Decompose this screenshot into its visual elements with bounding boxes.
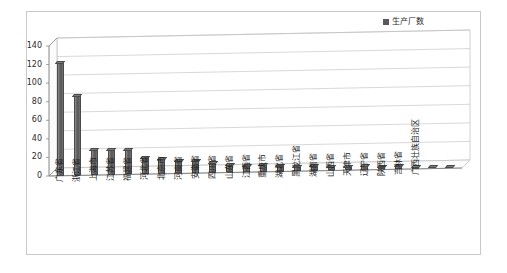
x-axis-category-label: 四川省: [209, 155, 217, 179]
x-axis-category-label: 辽宁省: [361, 152, 369, 176]
bar-top-face: [89, 148, 99, 151]
x-axis-category-label: 广东省: [56, 158, 64, 182]
x-axis-category-label: 福建省: [124, 157, 132, 181]
bar-top-face: [55, 61, 65, 64]
bar-series-layer: [0, 0, 507, 273]
x-axis-category-label: 吉林省: [395, 151, 403, 175]
x-axis-category-label: 北京市: [158, 156, 166, 180]
x-axis-category-label: 浙江省: [73, 158, 81, 182]
bar-column: [429, 166, 436, 169]
x-axis-category-label: 山西省: [327, 153, 335, 177]
x-axis-category-label: 陕西省: [378, 152, 386, 176]
x-axis-category-label: 山东省: [226, 155, 234, 179]
bar-top-face: [427, 165, 437, 168]
x-axis-category-label: 重庆市: [259, 154, 267, 178]
x-axis-category-label: 天津市: [344, 152, 352, 176]
x-axis-category-label: 河南省: [175, 156, 183, 180]
x-axis-category-label: 湖北省: [276, 154, 284, 178]
bar-top-face: [106, 148, 116, 151]
x-axis-category-label: 湖南省: [310, 153, 318, 177]
bar-top-face: [123, 148, 133, 151]
bar-top-face: [444, 165, 454, 168]
x-axis-category-label: 安徽省: [192, 155, 200, 179]
bar-top-face: [72, 94, 82, 97]
x-axis-category-label: 江西省: [243, 154, 251, 178]
x-axis-category-label: 河北省: [141, 156, 149, 180]
x-axis-category-label: 广西壮族自治区: [412, 119, 420, 175]
x-axis-category-label: 黑龙江省: [293, 145, 301, 177]
bar-chart-figure: 生产厂数: [0, 0, 507, 273]
x-axis-category-label: 上海市: [90, 157, 98, 181]
x-axis-category-label: 江苏省: [107, 157, 115, 181]
bar-column: [446, 166, 453, 168]
